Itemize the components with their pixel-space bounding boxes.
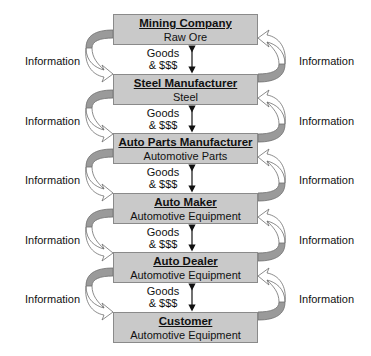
info-loop-right-4 [258,209,285,261]
info-loop-right-2 [258,90,285,142]
supply-chain-diagram: Mining Company Raw Ore Steel Manufacture… [0,0,371,356]
information-label-right: Information [299,234,354,247]
node-name: Auto Dealer [114,255,257,268]
node-name: Auto Maker [114,196,257,209]
info-loop-left-2 [86,90,113,142]
node-auto-parts-manufacturer: Auto Parts Manufacturer Automotive Parts [113,133,258,164]
node-product: Raw Ore [114,30,257,44]
information-label-left: Information [25,55,80,68]
info-loop-right-1 [258,30,285,82]
goods-label: Goods & $$$ [140,107,186,131]
info-loop-right-3 [258,149,285,201]
info-loop-left-5 [86,268,113,320]
goods-line-2: & $$$ [140,297,186,309]
information-label-left: Information [25,293,80,306]
node-customer: Customer Automotive Equipment [113,312,258,343]
goods-line-2: & $$$ [140,238,186,250]
goods-label: Goods & $$$ [140,166,186,190]
node-auto-dealer: Auto Dealer Automotive Equipment [113,252,258,283]
node-name: Steel Manufacturer [114,77,257,90]
goods-line-2: & $$$ [140,59,186,71]
information-label-right: Information [299,55,354,68]
goods-label: Goods & $$$ [140,226,186,250]
node-product: Automotive Equipment [114,209,257,223]
information-label-left: Information [25,234,80,247]
node-product: Automotive Equipment [114,268,257,282]
node-auto-maker: Auto Maker Automotive Equipment [113,193,258,224]
goods-line-1: Goods [140,107,186,119]
goods-line-1: Goods [140,166,186,178]
goods-line-2: & $$$ [140,119,186,131]
node-name: Auto Parts Manufacturer [114,136,257,149]
information-label-right: Information [299,115,354,128]
node-product: Automotive Equipment [114,328,257,342]
goods-line-2: & $$$ [140,178,186,190]
information-label-left: Information [25,174,80,187]
goods-line-1: Goods [140,47,186,59]
information-label-left: Information [25,115,80,128]
node-steel-manufacturer: Steel Manufacturer Steel [113,74,258,105]
info-loop-left-3 [86,149,113,201]
information-label-right: Information [299,293,354,306]
goods-line-1: Goods [140,285,186,297]
goods-label: Goods & $$$ [140,47,186,71]
node-name: Mining Company [114,17,257,30]
info-loop-right-5 [258,268,285,320]
info-loop-left-1 [86,30,113,82]
information-label-right: Information [299,174,354,187]
goods-line-1: Goods [140,226,186,238]
node-product: Steel [114,90,257,104]
node-mining-company: Mining Company Raw Ore [113,14,258,45]
node-name: Customer [114,315,257,328]
node-product: Automotive Parts [114,149,257,163]
goods-label: Goods & $$$ [140,285,186,309]
info-loop-left-4 [86,209,113,261]
